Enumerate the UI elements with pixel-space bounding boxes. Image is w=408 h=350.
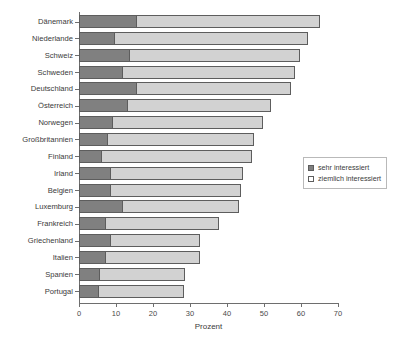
bar-segment-ziemlich	[101, 150, 252, 163]
legend-label: ziemlich interessiert	[318, 173, 381, 184]
x-tick-mark	[190, 303, 191, 307]
bar-segment-ziemlich	[99, 268, 185, 281]
x-tick-mark	[264, 303, 265, 307]
category-label: Schweiz	[45, 49, 73, 62]
bar-segment-sehr	[79, 133, 108, 146]
x-tick-label: 60	[297, 309, 305, 318]
legend-label: sehr interessiert	[318, 162, 369, 173]
legend-swatch-icon-filled	[308, 165, 314, 171]
bar-segment-sehr	[79, 184, 111, 197]
x-tick-label: 0	[77, 309, 81, 318]
bar-segment-ziemlich	[129, 49, 300, 62]
stacked-bar-chart: 010203040506070 DänemarkNiederlandeSchwe…	[0, 0, 408, 350]
x-tick-mark	[153, 303, 154, 307]
bar-segment-ziemlich	[110, 234, 200, 247]
category-label: Frankreich	[37, 217, 73, 230]
category-label: Großbritannien	[22, 133, 73, 146]
category-label: Griechenland	[28, 234, 73, 247]
bar-segment-ziemlich	[98, 285, 184, 298]
category-label: Luxemburg	[35, 200, 73, 213]
bar-segment-ziemlich	[107, 133, 254, 146]
x-tick-label: 50	[260, 309, 268, 318]
bar-segment-sehr	[79, 99, 128, 112]
x-tick-label: 30	[186, 309, 194, 318]
bar-segment-ziemlich	[127, 99, 270, 112]
bar-segment-sehr	[79, 285, 99, 298]
legend-item-sehr-interessiert: sehr interessiert	[308, 162, 381, 173]
bar-segment-ziemlich	[136, 82, 291, 95]
x-tick-mark	[79, 303, 80, 307]
category-label: Spanien	[45, 268, 73, 281]
category-label: Deutschland	[31, 82, 73, 95]
x-tick-mark	[116, 303, 117, 307]
bar-segment-ziemlich	[105, 217, 219, 230]
legend-item-ziemlich-interessiert: ziemlich interessiert	[308, 173, 381, 184]
bar-segment-ziemlich	[110, 184, 241, 197]
category-label: Niederlande	[32, 32, 73, 45]
x-tick-mark	[301, 303, 302, 307]
category-label: Dänemark	[38, 15, 73, 28]
bar-segment-ziemlich	[114, 32, 307, 45]
bar-segment-ziemlich	[112, 116, 263, 129]
bar-segment-ziemlich	[105, 251, 200, 264]
category-label: Irland	[54, 167, 73, 180]
bar-segment-sehr	[79, 200, 123, 213]
bar-segment-sehr	[79, 251, 106, 264]
bar-segment-sehr	[79, 167, 111, 180]
category-label: Portugal	[45, 285, 73, 298]
x-axis-line	[79, 303, 339, 304]
category-label: Schweden	[38, 66, 73, 79]
x-tick-label: 20	[149, 309, 157, 318]
bar-segment-ziemlich	[136, 15, 320, 28]
category-label: Belgien	[48, 184, 73, 197]
bar-segment-sehr	[79, 15, 137, 28]
bar-segment-sehr	[79, 116, 113, 129]
bar-segment-ziemlich	[122, 200, 240, 213]
legend-swatch-icon-empty	[308, 176, 314, 182]
category-label: Österreich	[38, 99, 73, 112]
x-axis-title: Prozent	[79, 322, 338, 331]
bar-segment-ziemlich	[122, 66, 295, 79]
bar-segment-sehr	[79, 234, 111, 247]
bar-segment-ziemlich	[110, 167, 242, 180]
x-tick-label: 40	[223, 309, 231, 318]
category-label: Italien	[53, 251, 73, 264]
bar-segment-sehr	[79, 150, 102, 163]
x-tick-label: 10	[112, 309, 120, 318]
bar-segment-sehr	[79, 82, 137, 95]
bar-segment-sehr	[79, 32, 115, 45]
x-tick-mark	[338, 303, 339, 307]
legend: sehr interessiert ziemlich interessiert	[303, 157, 387, 189]
category-label: Finland	[48, 150, 73, 163]
x-tick-label: 70	[334, 309, 342, 318]
bar-segment-sehr	[79, 49, 130, 62]
bar-segment-sehr	[79, 217, 106, 230]
x-tick-mark	[227, 303, 228, 307]
bar-segment-sehr	[79, 268, 100, 281]
category-label: Norwegen	[38, 116, 73, 129]
bar-segment-sehr	[79, 66, 123, 79]
